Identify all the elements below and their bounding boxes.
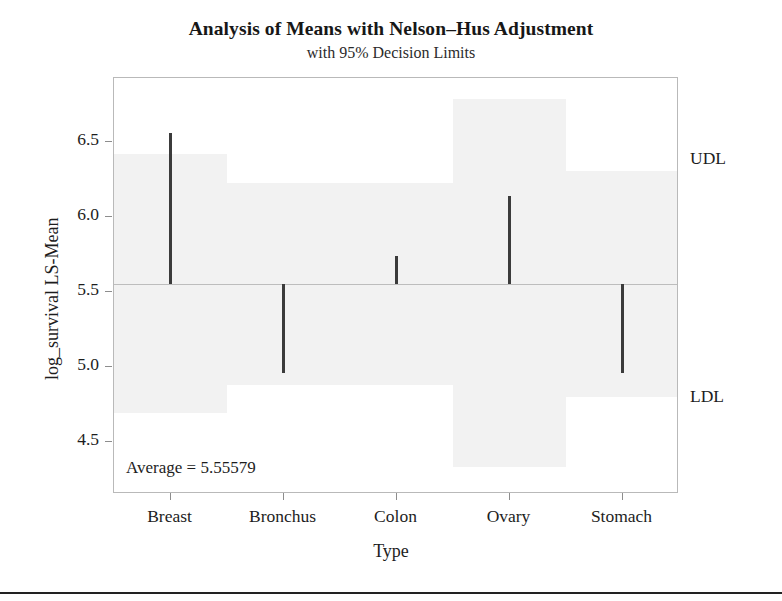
y-tick-label: 5.0 xyxy=(51,354,99,375)
bar-colon xyxy=(395,256,398,284)
y-tick-label: 6.0 xyxy=(51,204,99,225)
udl-label: UDL xyxy=(690,148,726,169)
bar-ovary xyxy=(508,196,511,283)
average-annotation: Average = 5.55579 xyxy=(126,458,256,478)
footer-rule xyxy=(0,592,782,594)
y-tick-label: 5.5 xyxy=(51,279,99,300)
x-tick-mark xyxy=(170,493,171,500)
y-tick-label: 6.5 xyxy=(51,129,99,150)
x-tick-mark xyxy=(396,493,397,500)
x-tick-mark xyxy=(509,493,510,500)
x-tick-label-stomach: Stomach xyxy=(591,506,652,527)
y-tick-mark xyxy=(105,216,112,217)
bar-breast xyxy=(169,133,172,283)
x-axis-title: Type xyxy=(0,541,782,562)
x-tick-label-breast: Breast xyxy=(147,506,192,527)
x-tick-label-colon: Colon xyxy=(374,506,417,527)
bar-bronchus xyxy=(282,284,285,373)
y-tick-label: 4.5 xyxy=(51,429,99,450)
center-line xyxy=(114,284,677,285)
x-tick-mark xyxy=(283,493,284,500)
x-tick-mark xyxy=(622,493,623,500)
ldl-label: LDL xyxy=(690,386,724,407)
chart-title: Analysis of Means with Nelson–Hus Adjust… xyxy=(0,18,782,40)
x-tick-label-bronchus: Bronchus xyxy=(249,506,316,527)
y-tick-mark xyxy=(105,441,112,442)
y-tick-mark xyxy=(105,291,112,292)
bar-stomach xyxy=(621,284,624,373)
chart-subtitle: with 95% Decision Limits xyxy=(0,44,782,62)
plot-area: Average = 5.55579 xyxy=(113,77,678,493)
anom-chart-figure: Analysis of Means with Nelson–Hus Adjust… xyxy=(0,0,782,601)
y-tick-mark xyxy=(105,141,112,142)
x-tick-label-ovary: Ovary xyxy=(487,506,531,527)
y-tick-mark xyxy=(105,366,112,367)
